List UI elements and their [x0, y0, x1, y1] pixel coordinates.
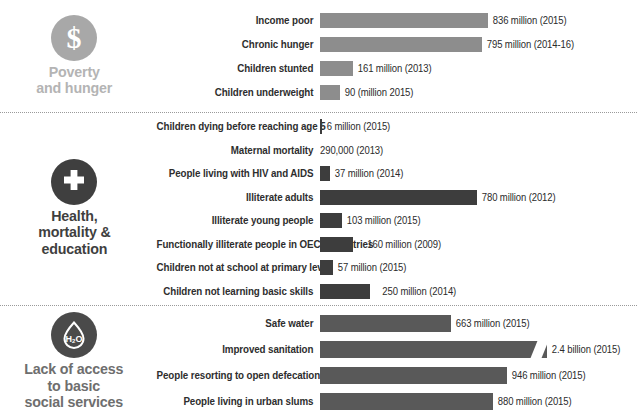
- row-label: Illiterate adults: [157, 192, 320, 203]
- bar: [320, 61, 353, 76]
- water-drop-glyph: H2O: [58, 319, 90, 351]
- bar-row: People resorting to open defecation 946 …: [148, 363, 635, 389]
- bar: [320, 237, 353, 252]
- dollar-sign-icon: $: [51, 15, 97, 61]
- bar: [320, 284, 370, 299]
- bar: [320, 190, 477, 205]
- bar-row: Improved sanitation 2.4 billion (2015): [148, 337, 635, 363]
- section-poverty-and-hunger: $ Poverty and hunger Income poor 836 mil…: [0, 0, 637, 113]
- bar-area: 103 million (2015): [320, 209, 635, 233]
- bar-value: 880 million (2015): [493, 396, 572, 407]
- row-label: Improved sanitation: [157, 344, 320, 355]
- bar-area: 250 million (2014): [320, 280, 635, 304]
- bar-value: 946 million (2015): [507, 370, 586, 381]
- bar-area: 946 million (2015): [320, 363, 635, 389]
- bar-value: 836 million (2015): [488, 15, 567, 26]
- bar: [320, 367, 507, 384]
- row-label: People living with HIV and AIDS: [157, 168, 320, 179]
- bar-value: 250 million (2014): [370, 286, 456, 297]
- row-label: Children dying before reaching age 5: [157, 121, 320, 132]
- category-poverty: $ Poverty and hunger: [0, 0, 148, 113]
- bar-row: Children not learning basic skills 250 m…: [148, 280, 635, 304]
- bar-area: 37 million (2014): [320, 162, 635, 186]
- row-label: Illiterate young people: [157, 215, 320, 226]
- bar-row: Income poor 836 million (2015): [148, 9, 635, 33]
- bar-value: 160 million (2009): [353, 239, 441, 250]
- row-label: People resorting to open defecation: [157, 370, 320, 381]
- bar-area: 2.4 billion (2015): [320, 337, 635, 363]
- bar-area: 6 million (2015): [320, 115, 635, 139]
- bar-area: 795 million (2014-16): [320, 33, 635, 57]
- bar-area: 160 million (2009): [320, 233, 635, 257]
- category-services: H2O Lack of access to basic social servi…: [0, 305, 148, 420]
- section-health-mortality-education: Health, mortality & education Children d…: [0, 113, 637, 305]
- bar-area: 780 million (2012): [320, 186, 635, 210]
- bar-rows-health: Children dying before reaching age 5 6 m…: [148, 113, 637, 305]
- bar: [320, 213, 342, 228]
- bar-value: 2.4 billion (2015): [547, 344, 620, 355]
- section-lack-of-access: H2O Lack of access to basic social servi…: [0, 305, 637, 420]
- bar: [320, 315, 451, 332]
- bar-area: 161 million (2013): [320, 57, 635, 81]
- category-title-line: mortality &: [38, 224, 110, 241]
- svg-text:H2O: H2O: [66, 334, 83, 345]
- bar: [320, 37, 482, 52]
- category-title-line: to basic: [25, 378, 124, 395]
- bar-value: 103 million (2015): [342, 215, 421, 226]
- bar-row: Illiterate young people 103 million (201…: [148, 209, 635, 233]
- category-title-line: and hunger: [36, 80, 112, 97]
- bar-area: 880 million (2015): [320, 389, 635, 415]
- bar-row: Functionally illiterate people in OECD c…: [148, 233, 635, 257]
- category-title-health: Health, mortality & education: [38, 208, 110, 258]
- row-label: Children underweight: [157, 87, 320, 98]
- bar-value: 161 million (2013): [353, 63, 432, 74]
- bar-value: 37 million (2014): [330, 168, 403, 179]
- bar-value: 6 million (2015): [322, 121, 390, 132]
- bar-area: 57 million (2015): [320, 256, 635, 280]
- bar-row: Safe water 663 million (2015): [148, 311, 635, 337]
- bar-value: 290,000 (2013): [320, 145, 383, 156]
- category-health: Health, mortality & education: [0, 113, 148, 305]
- dollar-glyph: $: [67, 23, 82, 53]
- bar-row: Chronic hunger 795 million (2014-16): [148, 33, 635, 57]
- row-label: Income poor: [157, 15, 320, 26]
- category-title-line: Lack of access: [25, 361, 124, 378]
- row-label: Children not at school at primary level: [157, 262, 320, 273]
- bar-with-axis-break: [320, 341, 547, 358]
- bar-area: 663 million (2015): [320, 311, 635, 337]
- category-title-services: Lack of access to basic social services: [25, 361, 124, 411]
- row-label: Children not learning basic skills: [157, 286, 320, 297]
- row-label: Safe water: [157, 318, 320, 329]
- bar: [320, 166, 330, 181]
- row-label: People living in urban slums: [157, 396, 320, 407]
- bar-value: 663 million (2015): [451, 318, 530, 329]
- row-label: Chronic hunger: [157, 39, 320, 50]
- row-label: Functionally illiterate people in OECD c…: [157, 239, 320, 250]
- category-title-line: Poverty: [36, 64, 112, 81]
- bar: [320, 13, 488, 28]
- bar-area: 836 million (2015): [320, 9, 635, 33]
- category-title-line: social services: [25, 394, 124, 411]
- bar-area: 290,000 (2013): [320, 139, 635, 163]
- bar-value: 780 million (2012): [477, 192, 556, 203]
- medical-cross-icon: [51, 159, 97, 205]
- row-label: Maternal mortality: [157, 145, 320, 156]
- bar-row: Children underweight 90 (million 2015): [148, 81, 635, 105]
- category-title-line: Health,: [38, 208, 110, 225]
- medical-cross-glyph: [60, 168, 88, 196]
- category-title-line: education: [38, 241, 110, 258]
- bar-value: 795 million (2014-16): [482, 39, 574, 50]
- bar-rows-services: Safe water 663 million (2015) Improved s…: [148, 305, 637, 420]
- bar-row: Maternal mortality 290,000 (2013): [148, 139, 635, 163]
- bar-area: 90 (million 2015): [320, 81, 635, 105]
- row-label: Children stunted: [157, 63, 320, 74]
- bar-row: Children not at school at primary level …: [148, 256, 635, 280]
- bar-row: Children stunted 161 million (2013): [148, 57, 635, 81]
- bar-value: 57 million (2015): [333, 262, 406, 273]
- bar-row: People living in urban slums 880 million…: [148, 389, 635, 415]
- category-title-poverty: Poverty and hunger: [36, 64, 112, 97]
- bar-value: 90 (million 2015): [340, 87, 413, 98]
- bar: [320, 393, 493, 410]
- bar-row: People living with HIV and AIDS 37 milli…: [148, 162, 635, 186]
- infographic-root: $ Poverty and hunger Income poor 836 mil…: [0, 0, 637, 420]
